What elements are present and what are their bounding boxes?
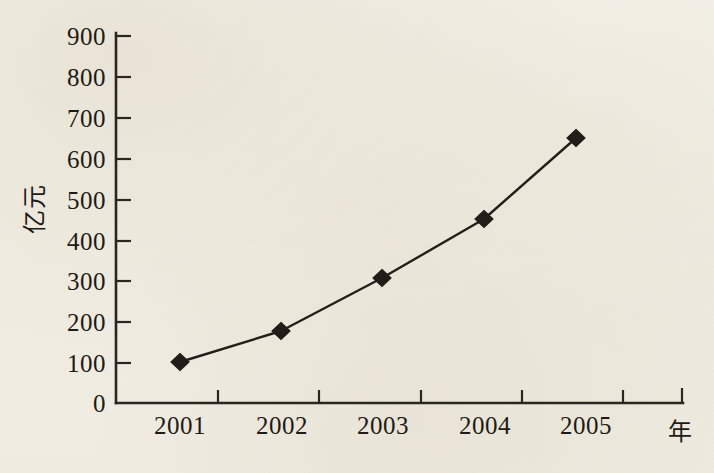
x-tick-label-2001: 2001 bbox=[130, 412, 230, 440]
line-chart: 900 800 700 600 500 400 300 200 100 0 20… bbox=[0, 0, 714, 473]
y-tick-label-700: 700 bbox=[38, 105, 106, 133]
y-tick-label-300: 300 bbox=[38, 268, 106, 296]
x-tick-label-2003: 2003 bbox=[333, 412, 433, 440]
data-point-2001 bbox=[171, 354, 189, 371]
x-tick-label-2002: 2002 bbox=[232, 412, 332, 440]
y-tick-label-200: 200 bbox=[38, 309, 106, 337]
data-point-2003 bbox=[373, 270, 391, 287]
y-tick-label-600: 600 bbox=[38, 146, 106, 174]
chart-plot-svg bbox=[0, 0, 714, 473]
x-tick-label-2004: 2004 bbox=[435, 412, 535, 440]
y-tick-label-100: 100 bbox=[38, 350, 106, 378]
y-axis-title: 亿元 bbox=[15, 175, 50, 243]
x-tick-label-2005: 2005 bbox=[536, 412, 636, 440]
y-tick-label-800: 800 bbox=[38, 64, 106, 92]
y-tick-label-900: 900 bbox=[38, 23, 106, 51]
x-axis-ticks bbox=[218, 388, 682, 403]
series-line-path bbox=[180, 138, 576, 362]
series-markers bbox=[171, 130, 585, 371]
data-point-2002 bbox=[272, 323, 290, 340]
y-tick-label-0: 0 bbox=[38, 390, 106, 418]
x-axis-title: 年 bbox=[668, 412, 693, 447]
y-axis-ticks bbox=[116, 36, 131, 363]
